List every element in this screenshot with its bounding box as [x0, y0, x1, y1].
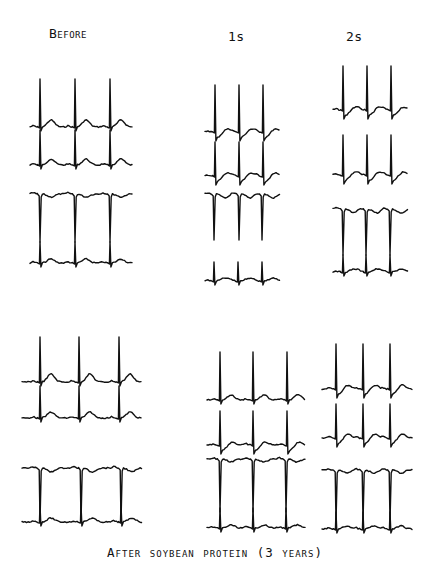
- figure-caption: After soybean protein (3 years): [0, 545, 430, 560]
- ecg-trace-lead-2: [322, 404, 412, 447]
- ecg-trace-lead-3: [30, 192, 132, 242]
- ecg-trace-lead-1: [22, 337, 141, 386]
- ecg-panel-top-2s: [333, 66, 408, 276]
- ecg-trace-lead-1: [333, 66, 407, 119]
- ecg-traces-figure: [0, 0, 430, 575]
- ecg-trace-lead-1: [205, 85, 279, 141]
- ecg-panel-top-before: [30, 79, 132, 267]
- ecg-trace-lead-4: [205, 262, 280, 285]
- ecg-trace-lead-2: [205, 142, 279, 185]
- ecg-panel-top-1s: [205, 85, 280, 285]
- ecg-trace-lead-4: [207, 508, 305, 532]
- ecg-trace-lead-4: [322, 512, 412, 533]
- ecg-trace-lead-1: [322, 344, 412, 398]
- ecg-trace-lead-1: [30, 79, 132, 131]
- ecg-trace-lead-4: [333, 255, 408, 276]
- ecg-trace-lead-2: [333, 135, 407, 184]
- ecg-trace-lead-3: [205, 193, 280, 240]
- ecg-trace-lead-3: [207, 457, 305, 512]
- ecg-panel-bottom-1s: [207, 352, 305, 532]
- ecg-trace-lead-4: [30, 242, 132, 267]
- ecg-trace-lead-1: [207, 352, 305, 404]
- ecg-trace-lead-3: [333, 208, 408, 256]
- ecg-trace-lead-2: [22, 386, 141, 422]
- ecg-trace-lead-2: [30, 130, 132, 169]
- ecg-trace-lead-4: [22, 505, 142, 526]
- ecg-panel-bottom-before: [22, 337, 142, 526]
- ecg-trace-lead-2: [207, 411, 305, 454]
- ecg-panel-bottom-2s: [322, 344, 412, 533]
